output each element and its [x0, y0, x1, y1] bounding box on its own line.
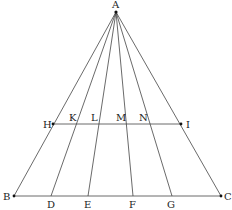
segment-AE [88, 12, 116, 196]
point-H [52, 123, 55, 126]
segment-AB [14, 12, 116, 196]
rays-from-apex [14, 12, 221, 196]
label-H: H [43, 119, 52, 130]
label-D: D [47, 199, 55, 210]
label-F: F [129, 199, 136, 210]
segment-AD [51, 12, 116, 196]
label-K: K [69, 112, 77, 123]
label-M: M [116, 112, 126, 123]
segment-AC [116, 12, 221, 196]
point-A [114, 10, 117, 13]
label-A: A [111, 0, 120, 10]
label-C: C [224, 191, 232, 202]
label-I: I [186, 119, 190, 130]
point-markers [13, 10, 223, 197]
geometry-diagram: A B C D E F G H I K L M N [0, 0, 232, 210]
label-B: B [3, 191, 10, 202]
label-N: N [139, 112, 148, 123]
label-G: G [167, 199, 175, 210]
point-B [13, 195, 16, 198]
label-L: L [91, 112, 98, 123]
point-I [180, 123, 183, 126]
point-C [220, 195, 223, 198]
label-E: E [84, 199, 91, 210]
